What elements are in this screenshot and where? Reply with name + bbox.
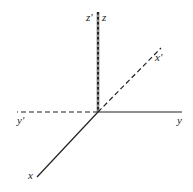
axis-x-prime (98, 48, 161, 112)
label-x-prime: x' (154, 51, 163, 63)
label-z: z (101, 11, 107, 23)
label-z-prime: z' (85, 11, 93, 23)
coordinate-axes-diagram: z z' y y' x x' (0, 0, 193, 192)
label-x: x (27, 169, 33, 181)
axes-lines (17, 12, 182, 177)
label-y: y (176, 114, 182, 126)
axis-x (37, 112, 98, 177)
label-y-prime: y' (16, 114, 25, 126)
